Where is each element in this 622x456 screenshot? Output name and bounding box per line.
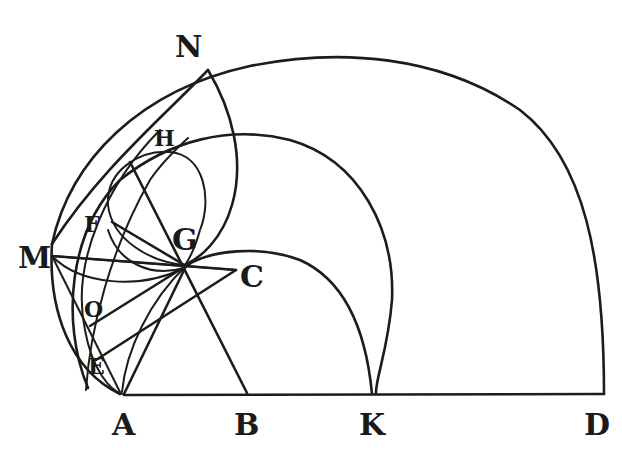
middle-arc-K xyxy=(73,134,393,394)
label-H: H xyxy=(154,127,175,149)
line-CE xyxy=(96,270,236,360)
line-HG-B xyxy=(130,162,247,393)
label-F: F xyxy=(84,213,100,235)
label-O: O xyxy=(84,298,103,320)
inner-arc-K xyxy=(186,251,372,394)
label-E: E xyxy=(88,355,105,377)
baseline-AD xyxy=(124,394,604,395)
label-C: C xyxy=(240,262,264,292)
label-N: N xyxy=(175,32,202,62)
label-G: G xyxy=(172,225,198,255)
label-M: M xyxy=(18,243,51,273)
label-D: D xyxy=(584,410,610,440)
line-GC xyxy=(186,266,236,270)
label-K: K xyxy=(359,410,385,440)
label-A: A xyxy=(112,410,135,440)
label-B: B xyxy=(234,410,259,440)
